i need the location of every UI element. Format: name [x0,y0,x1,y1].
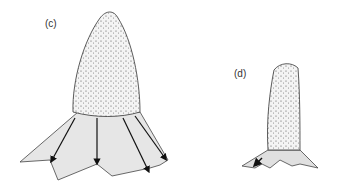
panel-c-figure [20,12,168,180]
figure-drawing [0,0,339,196]
panel-d-figure [242,64,318,168]
